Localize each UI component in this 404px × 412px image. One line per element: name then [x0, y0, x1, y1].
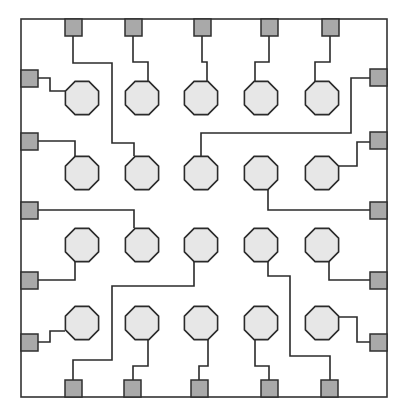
- bond-diagram: [0, 0, 404, 412]
- pad-right-2: [370, 132, 387, 149]
- pad-top-4: [261, 19, 278, 36]
- die-r1-c4: [244, 81, 277, 114]
- die-r1-c3: [184, 81, 217, 114]
- die-r2-c3: [184, 156, 217, 189]
- die-r4-c1: [65, 306, 98, 339]
- pad-left-3: [21, 202, 38, 219]
- pad-right-4: [370, 272, 387, 289]
- pad-top-5: [322, 19, 339, 36]
- die-r3-c5: [305, 228, 338, 261]
- wire-right1: [201, 78, 370, 156]
- die-r4-c3: [184, 306, 217, 339]
- wire-top3: [202, 36, 207, 81]
- pad-bottom-4: [261, 380, 278, 397]
- die-r2-c1: [65, 156, 98, 189]
- die-r3-c2: [125, 228, 158, 261]
- wire-right5: [339, 317, 370, 342]
- pad-bottom-2: [124, 380, 141, 397]
- pad-left-4: [21, 272, 38, 289]
- die-r1-c1: [65, 81, 98, 114]
- wire-bottom3: [199, 340, 208, 380]
- die-r3-c3: [184, 228, 217, 261]
- wire-top4: [255, 36, 269, 81]
- die-r3-c1: [65, 228, 98, 261]
- wire-bottom2: [133, 340, 148, 380]
- wire-top5: [315, 36, 330, 81]
- wire-top2: [133, 36, 148, 81]
- pad-left-5: [21, 334, 38, 351]
- die-r2-c5: [305, 156, 338, 189]
- die-r1-c5: [305, 81, 338, 114]
- pad-top-3: [194, 19, 211, 36]
- die-r4-c5: [305, 306, 338, 339]
- pad-left-1: [21, 70, 38, 87]
- wire-left1: [38, 78, 65, 91]
- wire-right3: [268, 190, 370, 210]
- die-r1-c2: [125, 81, 158, 114]
- pad-top-1: [65, 19, 82, 36]
- wire-bottom4: [255, 340, 269, 380]
- wire-right4: [329, 262, 370, 280]
- pad-bottom-1: [65, 380, 82, 397]
- pad-bottom-5: [321, 380, 338, 397]
- die-r2-c4: [244, 156, 277, 189]
- wire-right2: [339, 142, 370, 166]
- pad-left-2: [21, 133, 38, 150]
- pad-right-1: [370, 69, 387, 86]
- wire-left4: [38, 262, 75, 280]
- pad-right-3: [370, 202, 387, 219]
- die-r2-c2: [125, 156, 158, 189]
- wire-left5: [38, 331, 65, 342]
- die-r4-c4: [244, 306, 277, 339]
- die-r3-c4: [244, 228, 277, 261]
- pad-top-2: [125, 19, 142, 36]
- die-r4-c2: [125, 306, 158, 339]
- pad-bottom-3: [191, 380, 208, 397]
- pad-right-5: [370, 334, 387, 351]
- wire-left3: [38, 210, 134, 228]
- wire-left2: [38, 141, 75, 156]
